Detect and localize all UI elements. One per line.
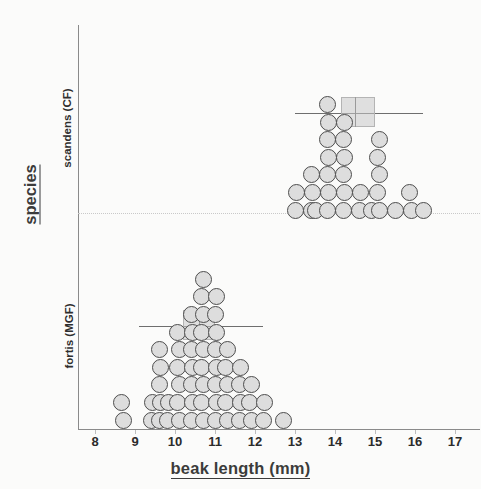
x-tick-label: 12 (240, 434, 270, 449)
plot-frame (78, 25, 480, 430)
y-category-label-scandens: scandens (CF) (61, 73, 73, 183)
data-point-dot (319, 96, 336, 113)
data-point-dot (335, 166, 352, 183)
data-point-dot (320, 114, 337, 131)
data-point-dot (207, 306, 224, 323)
data-point-dot (320, 184, 337, 201)
data-point-dot (275, 412, 292, 429)
x-tick-label: 15 (360, 434, 390, 449)
data-point-dot (152, 359, 169, 376)
x-axis-title: beak length (mm) (0, 459, 481, 478)
data-point-dot (151, 341, 168, 358)
x-tick-label: 9 (120, 434, 150, 449)
data-point-dot (255, 412, 272, 429)
data-point-dot (387, 202, 404, 219)
data-point-dot (401, 184, 418, 201)
y-axis-title-text: species (21, 164, 41, 225)
data-point-dot (243, 376, 260, 393)
y-axis-title: species (21, 135, 40, 255)
data-point-dot (232, 359, 249, 376)
data-point-dot (320, 149, 337, 166)
chart-canvas: species scandens (CF) fortis (MGF) 89101… (0, 0, 481, 489)
data-point-dot (371, 166, 388, 183)
boxplot-median-line (355, 97, 356, 127)
x-tick-label: 11 (200, 434, 230, 449)
data-point-dot (336, 114, 353, 131)
data-point-dot (303, 166, 320, 183)
data-point-dot (352, 184, 369, 201)
data-point-dot (195, 271, 212, 288)
data-point-dot (304, 184, 321, 201)
x-tick-label: 17 (440, 434, 470, 449)
data-point-dot (336, 184, 353, 201)
y-category-label-fortis: fortis (MGF) (63, 281, 75, 391)
data-point-dot (288, 184, 305, 201)
data-point-dot (415, 202, 432, 219)
data-point-dot (208, 324, 225, 341)
data-point-dot (371, 202, 388, 219)
x-tick-label: 16 (400, 434, 430, 449)
x-tick-label: 10 (160, 434, 190, 449)
data-point-dot (319, 166, 336, 183)
data-point-dot (151, 376, 168, 393)
data-point-dot (256, 394, 273, 411)
x-tick-label: 8 (80, 434, 110, 449)
data-point-dot (287, 202, 304, 219)
data-point-dot (115, 412, 132, 429)
data-point-dot (371, 131, 388, 148)
data-point-dot (113, 394, 130, 411)
data-point-dot (336, 149, 353, 166)
x-tick-label: 14 (320, 434, 350, 449)
data-point-dot (335, 202, 352, 219)
data-point-dot (219, 341, 236, 358)
data-point-dot (319, 202, 336, 219)
data-point-dot (369, 184, 386, 201)
data-point-dot (335, 131, 352, 148)
data-point-dot (369, 149, 386, 166)
x-axis-title-text: beak length (mm) (171, 459, 311, 479)
x-tick-label: 13 (280, 434, 310, 449)
data-point-dot (319, 131, 336, 148)
